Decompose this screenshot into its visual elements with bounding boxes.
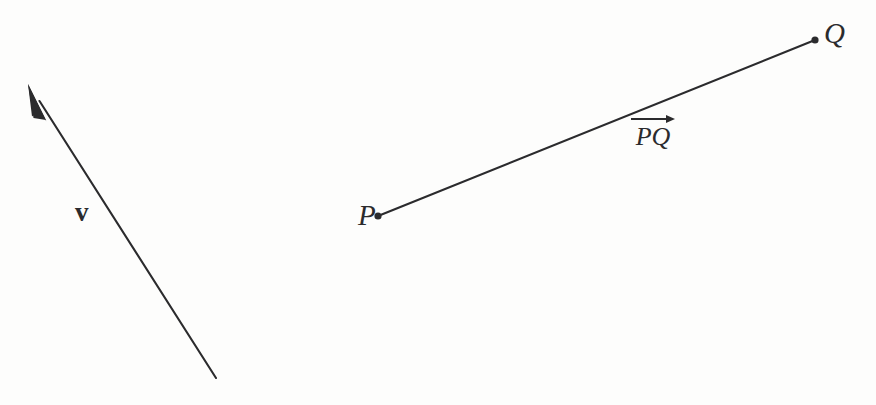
segment-label-pq-text: PQ xyxy=(631,124,675,150)
figure-canvas xyxy=(0,0,876,405)
vector-shaft xyxy=(40,101,217,378)
point-label-p: P xyxy=(358,201,376,230)
point-label-q: Q xyxy=(824,19,845,48)
vector-label-v: v xyxy=(75,199,89,226)
overline-arrowhead xyxy=(666,115,675,123)
segment-pq-group xyxy=(374,36,818,219)
overline-bar xyxy=(631,118,671,120)
vector-arrow-v xyxy=(28,84,216,378)
segment-label-pq: PQ xyxy=(631,114,675,150)
right-arrow-overline-icon xyxy=(631,114,675,123)
segment-pq-line xyxy=(378,40,815,216)
vector-figure: v P Q PQ xyxy=(0,0,876,405)
point-q-dot xyxy=(811,36,818,43)
